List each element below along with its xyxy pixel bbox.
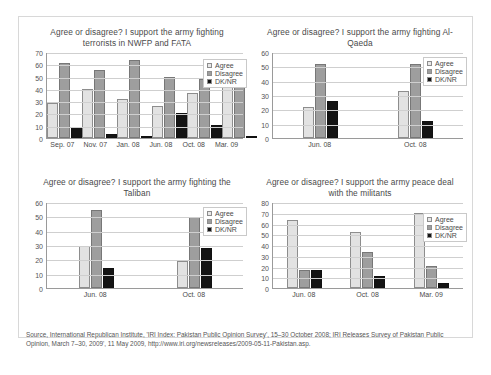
legend-swatch-dknr [427,77,432,82]
x-tick-label: Jun. 08 [272,291,336,298]
legend-item-disagree: Disagree [427,68,463,75]
gridline [47,90,243,91]
gridline [47,203,243,204]
legend-label-disagree: Disagree [215,70,243,77]
figure-container: Agree or disagree? I support the army fi… [18,16,473,338]
y-tick-label: 50 [261,64,269,71]
y-tick-label: 0 [39,286,43,293]
bar-agree [79,246,90,289]
plot-area: 0102030405060 Jun. 08Oct. 08 Agree Disag… [25,203,249,307]
x-tick-label: Oct. 08 [336,291,400,298]
y-tick-label: 0 [265,286,269,293]
x-tick-label: Nov. 07 [79,141,112,148]
gridline [47,114,243,115]
legend-label-agree: Agree [215,62,234,69]
chart-panel-terrorists-nwfp-fata: Agree or disagree? I support the army fi… [25,23,249,171]
bar-disagree [315,64,326,138]
bar-agree [47,103,58,138]
y-tick-label: 60 [35,200,43,207]
chart-panel-taliban: Agree or disagree? I support the army fi… [25,173,249,321]
legend-label-agree: Agree [435,60,454,67]
x-tick-label: Jan. 08 [112,141,145,148]
plot-area: 010203040506070 Sep. 07Nov. 07Jan. 08Jun… [25,53,249,157]
legend-item-agree: Agree [427,60,463,67]
bar-dk [106,134,117,138]
legend-label-dknr: DK/NR [215,78,237,85]
legend-item-dknr: DK/NR [207,226,243,233]
x-tick-label: Oct. 08 [177,141,210,148]
y-tick-label: 10 [261,121,269,128]
legend-label-agree: Agree [435,216,454,223]
legend-swatch-agree [427,217,432,222]
legend-item-agree: Agree [427,216,463,223]
y-tick-label: 10 [35,123,43,130]
y-tick-label: 40 [261,243,269,250]
y-tick-label: 30 [261,93,269,100]
y-tick-label: 60 [261,221,269,228]
legend-swatch-disagree [427,69,432,74]
y-tick-label: 60 [35,62,43,69]
chart-title: Agree or disagree? I support the army fi… [25,173,249,199]
gridline [47,53,243,54]
y-tick-label: 0 [39,136,43,143]
bar-disagree [189,217,200,288]
y-tick-label: 10 [35,271,43,278]
y-axis: 0102030405060 [25,203,45,289]
legend-swatch-disagree [207,71,212,76]
gridline [273,257,463,258]
legend-item-dknr: DK/NR [427,76,463,83]
legend-label-disagree: Disagree [215,218,243,225]
gridline [273,110,463,111]
x-tick-label: Jun. 08 [144,141,177,148]
gridline [273,203,463,204]
legend-item-dknr: DK/NR [427,232,463,239]
plot-area: 0102030405060 Jun. 08Oct. 08 Agree Disag… [251,53,469,157]
legend-item-disagree: Disagree [207,218,243,225]
x-tick-label: Jun. 08 [272,141,368,148]
chart-title: Agree or disagree? I support the army pe… [251,173,469,199]
bar-agree [152,106,163,138]
y-tick-label: 30 [261,253,269,260]
gridline [273,278,463,279]
bar-disagree [410,64,421,138]
gridline [47,260,243,261]
y-tick-label: 40 [35,86,43,93]
bar-disagree [426,266,437,288]
bar-agree [187,93,198,138]
chart-title: Agree or disagree? I support the army fi… [25,23,249,49]
y-tick-label: 20 [261,264,269,271]
legend-swatch-disagree [427,225,432,230]
bar-dk [103,268,114,288]
gridline [273,125,463,126]
x-axis: Sep. 07Nov. 07Jan. 08Jun. 08Oct. 08Mar. … [46,141,243,148]
legend-item-agree: Agree [207,62,243,69]
chart-legend: Agree Disagree DK/NR [203,59,247,88]
bar-dk [422,121,433,138]
x-axis: Jun. 08Oct. 08 [272,141,463,148]
chart-legend: Agree Disagree DK/NR [423,57,467,86]
legend-item-dknr: DK/NR [207,78,243,85]
plot-area: 01020304050607080 Jun. 08Oct. 08Mar. 09 … [251,203,469,307]
gridline [47,275,243,276]
legend-label-dknr: DK/NR [435,76,457,83]
legend-label-dknr: DK/NR [435,232,457,239]
gridline [47,102,243,103]
bar-dk [176,113,187,139]
bar-agree [117,99,128,138]
bar-dk [201,248,212,288]
gridline [47,246,243,247]
legend-label-disagree: Disagree [435,224,463,231]
gridline [273,96,463,97]
bar-dk [327,101,338,138]
x-tick-label: Mar. 09 [399,291,463,298]
chart-legend: Agree Disagree DK/NR [423,213,467,242]
y-tick-label: 30 [35,99,43,106]
y-tick-label: 70 [261,210,269,217]
y-tick-label: 20 [261,107,269,114]
bar-disagree [94,70,105,138]
x-axis: Jun. 08Oct. 08Mar. 09 [272,291,463,298]
source-note: Source, International Republican Institu… [26,330,466,348]
legend-swatch-dknr [207,79,212,84]
legend-swatch-agree [207,63,212,68]
y-tick-label: 80 [261,200,269,207]
